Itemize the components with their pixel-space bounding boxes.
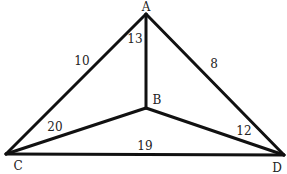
edge-weight-cd: 19 — [137, 139, 152, 153]
edge-bd — [146, 108, 284, 155]
edge-ac — [6, 14, 146, 154]
vertex-label-c: C — [13, 159, 22, 173]
edge-weight-bc: 20 — [47, 120, 62, 134]
edge-weight-bd: 12 — [236, 124, 251, 138]
graph-diagram: 10813201219 ABCD — [0, 0, 287, 174]
vertex-label-a: A — [141, 0, 151, 14]
edge-weight-ac: 10 — [74, 54, 89, 68]
vertex-label-d: D — [272, 161, 282, 174]
edge-ad — [146, 14, 284, 155]
edge-weight-ab: 13 — [127, 32, 142, 46]
vertex-label-b: B — [153, 93, 162, 107]
edge-cd — [6, 154, 284, 155]
edge-weight-ad: 8 — [210, 57, 218, 71]
